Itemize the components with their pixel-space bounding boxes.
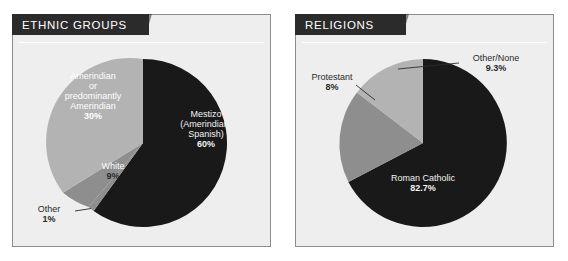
slice-label-mestizo-line2: (Amerindian- <box>163 119 249 129</box>
slice-value-mestizo: 60% <box>163 139 249 149</box>
slice-value-amerindian: 30% <box>47 111 139 121</box>
callout-line-other <box>75 209 91 212</box>
infographic-sheet: ETHNIC GROUPS Mestizo (Amerind <box>0 0 568 261</box>
panel-title-ethnic: ETHNIC GROUPS <box>22 19 127 31</box>
slice-label-protestant: Protestant 8% <box>299 72 365 92</box>
slice-label-roman-catholic-line1: Roman Catholic <box>371 173 475 183</box>
panel-title-religions: RELIGIONS <box>305 19 374 31</box>
slice-label-roman-catholic: Roman Catholic 82.7% <box>371 173 475 193</box>
slice-label-other-none-line1: Other/None <box>457 53 535 63</box>
panel-inner-hairline-ethnic <box>19 42 264 43</box>
pie-svg-religions <box>296 15 555 248</box>
slice-label-mestizo-line3: Spanish) <box>163 129 249 139</box>
slice-value-other: 1% <box>25 214 73 224</box>
slice-value-protestant: 8% <box>299 82 365 92</box>
slice-value-roman-catholic: 82.7% <box>371 183 475 193</box>
slice-label-other-line1: Other <box>25 204 73 214</box>
slice-label-protestant-line1: Protestant <box>299 72 365 82</box>
slice-label-other: Other 1% <box>25 204 73 224</box>
slice-label-mestizo-line1: Mestizo <box>163 109 249 119</box>
slice-label-amerindian-line1: Amerindian <box>47 71 139 81</box>
pie-chart-religions: Roman Catholic 82.7% Other/None 9.3% Pro… <box>296 15 553 246</box>
panel-religions: RELIGIONS Roman Catholic 82.7% <box>295 14 554 247</box>
slice-label-amerindian: Amerindian or predominantly Amerindian 3… <box>47 71 139 121</box>
panel-title-banner-ethnic: ETHNIC GROUPS <box>12 14 149 35</box>
slice-label-white: White 9% <box>83 161 143 181</box>
panel-ethnic-groups: ETHNIC GROUPS Mestizo (Amerind <box>12 14 271 247</box>
pie-chart-ethnic-groups: Mestizo (Amerindian- Spanish) 60% Amerin… <box>13 15 270 246</box>
slice-value-white: 9% <box>83 171 143 181</box>
slice-label-mestizo: Mestizo (Amerindian- Spanish) 60% <box>163 109 249 149</box>
slice-label-amerindian-line4: Amerindian <box>47 101 139 111</box>
slice-label-amerindian-line2: or <box>47 81 139 91</box>
slice-label-other-none: Other/None 9.3% <box>457 53 535 73</box>
panel-inner-hairline-religions <box>302 42 547 43</box>
slice-label-amerindian-line3: predominantly <box>47 91 139 101</box>
slice-label-white-line1: White <box>83 161 143 171</box>
slice-value-other-none: 9.3% <box>457 63 535 73</box>
